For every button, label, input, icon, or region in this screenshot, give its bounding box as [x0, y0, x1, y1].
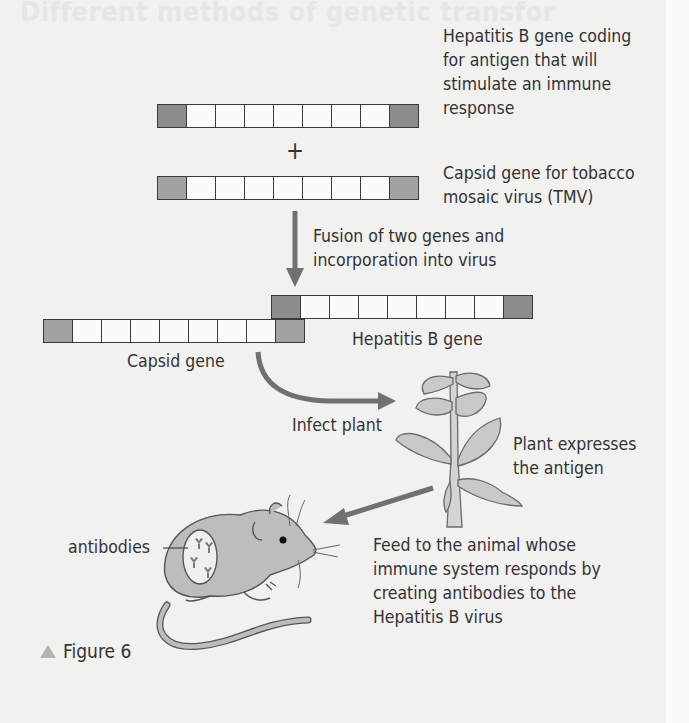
- plant-illustration: [396, 372, 522, 527]
- feed-animal-label: Feed to the animal whose immune system r…: [373, 533, 601, 629]
- antibodies-label: antibodies: [68, 535, 150, 559]
- triangle-icon: [40, 645, 56, 658]
- rat-illustration: [160, 495, 340, 647]
- infect-plant-label: Infect plant: [292, 413, 382, 437]
- down-arrow-icon: [286, 211, 304, 287]
- figure-caption-text: Figure 6: [63, 640, 131, 662]
- curved-arrow-icon: [258, 352, 396, 410]
- plant-expresses-label: Plant expresses the antigen: [513, 432, 636, 480]
- figure-caption: Figure 6: [40, 640, 131, 662]
- feed-arrow-icon: [323, 488, 433, 525]
